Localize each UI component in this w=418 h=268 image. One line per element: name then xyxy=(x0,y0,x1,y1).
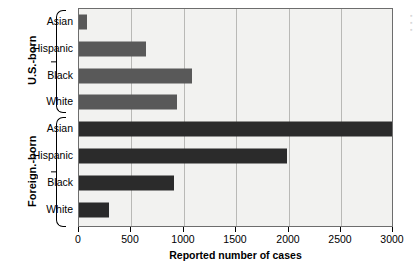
xtick-mark-500 xyxy=(130,227,131,232)
bar-us-asian xyxy=(79,15,87,30)
plot-area xyxy=(78,8,393,227)
gridline-1500 xyxy=(236,9,237,226)
category-label-foreign-asian: Asian xyxy=(47,122,73,134)
gridline-2500 xyxy=(341,9,342,226)
category-label-us-asian: Asian xyxy=(47,15,73,27)
bar-chart-figure: U.S.-born Foreign.-born Asian Hispanic B… xyxy=(0,0,418,268)
category-label-foreign-black: Black xyxy=(47,176,73,188)
xtick-label-1500: 1500 xyxy=(223,233,246,245)
bar-foreign-hispanic xyxy=(79,149,287,164)
xtick-label-0: 0 xyxy=(75,233,81,245)
category-label-us-white: White xyxy=(46,95,73,107)
xtick-mark-1500 xyxy=(235,227,236,232)
xtick-label-2500: 2500 xyxy=(328,233,351,245)
category-label-column: Asian Hispanic Black White Asian Hispani… xyxy=(20,0,73,268)
xtick-mark-2000 xyxy=(288,227,289,232)
bar-us-white xyxy=(79,95,177,110)
category-label-us-hispanic: Hispanic xyxy=(33,42,73,54)
category-label-foreign-hispanic: Hispanic xyxy=(33,149,73,161)
gridline-1000 xyxy=(184,9,185,226)
category-label-foreign-white: White xyxy=(46,203,73,215)
xtick-label-500: 500 xyxy=(121,233,139,245)
xtick-mark-3000 xyxy=(392,227,393,232)
xtick-label-2000: 2000 xyxy=(276,233,299,245)
bar-foreign-white xyxy=(79,203,109,218)
bar-foreign-black xyxy=(79,176,174,191)
xtick-mark-0 xyxy=(78,227,79,232)
category-label-us-black: Black xyxy=(47,69,73,81)
cropped-edge-artifact: ▪▪▪ xyxy=(410,12,418,46)
xtick-mark-2500 xyxy=(340,227,341,232)
xtick-mark-1000 xyxy=(183,227,184,232)
x-axis-title: Reported number of cases xyxy=(78,249,393,261)
xtick-label-1000: 1000 xyxy=(171,233,194,245)
bar-foreign-asian xyxy=(79,122,392,137)
bar-us-black xyxy=(79,69,192,84)
gridline-2000 xyxy=(289,9,290,226)
xtick-label-3000: 3000 xyxy=(380,233,403,245)
bar-us-hispanic xyxy=(79,42,146,57)
